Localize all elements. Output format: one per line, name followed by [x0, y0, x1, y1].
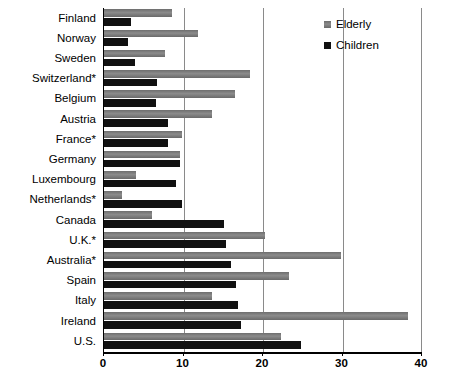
bar-elderly-italy: [104, 292, 212, 300]
bar-children-austria: [104, 119, 168, 127]
bar-group: [104, 89, 422, 109]
legend-item-elderly[interactable]: Elderly: [324, 18, 379, 30]
category-label-switzerland: Switzerland*: [0, 72, 96, 84]
legend-label-children: Children: [336, 39, 379, 51]
bar-elderly-luxembourg: [104, 171, 136, 179]
category-label-luxembourg: Luxembourg: [0, 173, 96, 185]
bar-group: [104, 311, 422, 331]
bar-group: [104, 109, 422, 129]
bar-elderly-switzerland: [104, 70, 250, 78]
bar-group: [104, 69, 422, 89]
category-label-germany: Germany: [0, 153, 96, 165]
category-label-u-k: U.K.*: [0, 234, 96, 246]
category-label-finland: Finland: [0, 12, 96, 24]
x-tick-label-0: 0: [83, 357, 123, 369]
bar-elderly-finland: [104, 9, 172, 17]
bar-children-finland: [104, 18, 131, 26]
bar-group: [104, 230, 422, 250]
category-label-ireland: Ireland: [0, 315, 96, 327]
bar-children-germany: [104, 160, 180, 168]
bar-elderly-france: [104, 131, 182, 139]
bar-children-canada: [104, 220, 224, 228]
x-tick-label-10: 10: [163, 357, 203, 369]
category-label-france: France*: [0, 133, 96, 145]
tick-mark-40: [421, 352, 422, 356]
bar-children-australia: [104, 261, 231, 269]
bar-children-u-s: [104, 341, 301, 349]
bar-children-france: [104, 139, 168, 147]
bar-elderly-germany: [104, 151, 180, 159]
category-label-austria: Austria: [0, 113, 96, 125]
category-label-u-s: U.S.: [0, 335, 96, 347]
category-label-spain: Spain: [0, 274, 96, 286]
bar-elderly-belgium: [104, 90, 235, 98]
bar-group: [104, 250, 422, 270]
bar-elderly-austria: [104, 110, 212, 118]
bar-elderly-netherlands: [104, 191, 122, 199]
bar-children-sweden: [104, 59, 135, 67]
tick-mark-30: [342, 352, 343, 356]
bar-children-italy: [104, 301, 238, 309]
category-label-belgium: Belgium: [0, 92, 96, 104]
category-label-sweden: Sweden: [0, 52, 96, 64]
bar-elderly-u-k: [104, 232, 265, 240]
tick-mark-10: [183, 352, 184, 356]
category-label-italy: Italy: [0, 294, 96, 306]
bar-elderly-australia: [104, 252, 341, 260]
bar-elderly-canada: [104, 211, 152, 219]
bar-elderly-sweden: [104, 50, 165, 58]
bar-children-spain: [104, 281, 236, 289]
bar-elderly-u-s: [104, 333, 281, 341]
bar-children-ireland: [104, 321, 241, 329]
bar-children-switzerland: [104, 79, 157, 87]
bar-group: [104, 291, 422, 311]
x-tick-label-20: 20: [242, 357, 282, 369]
black-square-swatch-icon: [324, 42, 331, 49]
gray-square-swatch-icon: [324, 21, 331, 28]
tick-mark-0: [103, 352, 104, 356]
legend-label-elderly: Elderly: [336, 18, 371, 30]
bar-children-norway: [104, 38, 128, 46]
bar-children-luxembourg: [104, 180, 176, 188]
category-label-norway: Norway: [0, 32, 96, 44]
bar-children-u-k: [104, 240, 226, 248]
bar-group: [104, 149, 422, 169]
bar-elderly-spain: [104, 272, 289, 280]
bar-group: [104, 190, 422, 210]
chart-legend: Elderly Children: [324, 18, 379, 60]
tick-mark-20: [262, 352, 263, 356]
bar-elderly-norway: [104, 30, 198, 38]
bar-children-belgium: [104, 99, 156, 107]
category-label-canada: Canada: [0, 214, 96, 226]
poverty-rate-bar-chart: FinlandNorwaySwedenSwitzerland*BelgiumAu…: [0, 0, 460, 392]
bar-group: [104, 331, 422, 351]
x-tick-label-40: 40: [401, 357, 441, 369]
bar-children-netherlands: [104, 200, 182, 208]
x-tick-label-30: 30: [322, 357, 362, 369]
bar-group: [104, 210, 422, 230]
legend-item-children[interactable]: Children: [324, 39, 379, 51]
bar-group: [104, 271, 422, 291]
bar-group: [104, 170, 422, 190]
bar-elderly-ireland: [104, 312, 408, 320]
bar-group: [104, 129, 422, 149]
category-label-netherlands: Netherlands*: [0, 193, 96, 205]
category-label-australia: Australia*: [0, 254, 96, 266]
